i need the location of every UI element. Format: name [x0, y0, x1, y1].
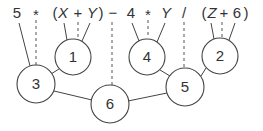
node-2: 2: [202, 38, 238, 74]
token-minus: −: [109, 4, 118, 21]
token-multiply: *: [33, 6, 39, 23]
token-plus: +: [74, 4, 83, 21]
token-x: X: [57, 4, 69, 21]
expression-tree-diagram: 5 * ( X + Y ) − 4 * Y / ( Z + 6 ) 1 4 2 …: [0, 0, 263, 131]
token-6: 6: [233, 4, 241, 21]
node-6: 6: [91, 85, 129, 123]
token-open-paren: (: [53, 4, 58, 21]
edge-y-to-n4: [157, 23, 165, 42]
edge-n5-to-n6: [128, 93, 167, 101]
token-multiply-2: *: [145, 6, 151, 23]
edge-z-to-n2: [211, 23, 214, 39]
edge-6-to-n2: [229, 23, 235, 40]
node-5: 5: [166, 68, 204, 106]
diagram-svg: 5 * ( X + Y ) − 4 * Y / ( Z + 6 ) 1 4 2 …: [0, 0, 263, 131]
token-5: 5: [13, 4, 21, 21]
token-plus-2: +: [220, 4, 229, 21]
node-3: 3: [17, 65, 55, 103]
node-label: 2: [216, 47, 224, 64]
edge-x-to-n1: [64, 23, 67, 40]
edge-n2-to-n5: [201, 68, 206, 76]
token-close-paren: ): [99, 4, 104, 21]
edge-n4-to-n5: [160, 70, 170, 76]
token-y: Y: [87, 4, 98, 21]
edge-y-to-n1: [82, 23, 90, 41]
node-label: 6: [106, 95, 114, 112]
edge-n3-to-n6: [54, 91, 92, 100]
token-open-paren-2: (: [202, 4, 207, 21]
node-label: 3: [32, 75, 40, 92]
expression-text: 5 * ( X + Y ) − 4 * Y / ( Z + 6 ): [13, 4, 249, 23]
node-1: 1: [55, 39, 91, 75]
token-z: Z: [206, 4, 217, 21]
edge-4-to-n4: [132, 23, 139, 41]
token-y-2: Y: [161, 4, 172, 21]
token-close-paren-2: ): [244, 4, 249, 21]
node-label: 4: [143, 48, 151, 65]
token-divide: /: [182, 4, 187, 21]
node-label: 5: [181, 78, 189, 95]
node-label: 1: [69, 48, 77, 65]
node-4: 4: [129, 39, 165, 75]
edge-5-to-n3: [19, 23, 30, 66]
token-4: 4: [127, 4, 135, 21]
